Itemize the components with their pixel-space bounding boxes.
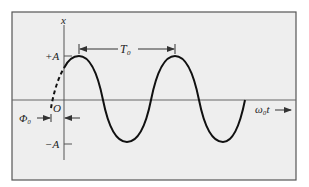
diagram-frame bbox=[12, 12, 296, 180]
plus-a-label: +A bbox=[45, 50, 59, 62]
minus-a-label: −A bbox=[45, 138, 59, 150]
phase-label: Φ₀ bbox=[19, 112, 31, 124]
y-axis-label: x bbox=[60, 14, 66, 26]
sinusoid-diagram: T₀ Φ₀ x +A −A O ω₀t bbox=[0, 0, 309, 187]
origin-label: O bbox=[53, 102, 61, 114]
period-label: T₀ bbox=[120, 42, 131, 56]
time-axis-label: ω₀t bbox=[255, 103, 271, 115]
